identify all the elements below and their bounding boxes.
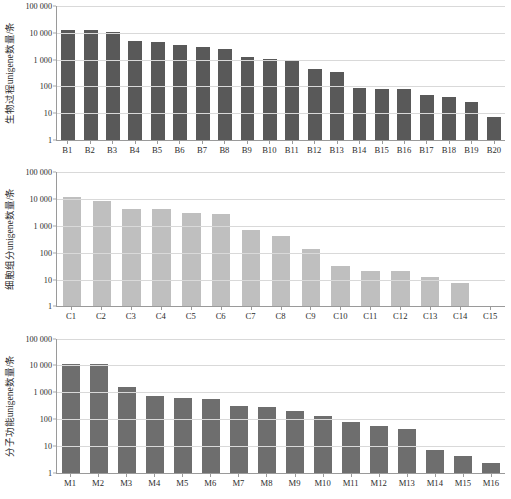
bar[interactable] xyxy=(230,406,247,472)
bar[interactable] xyxy=(212,214,231,306)
bar[interactable] xyxy=(375,89,389,140)
bar[interactable] xyxy=(391,271,410,306)
bar[interactable] xyxy=(420,95,434,140)
x-tick-slot: B20 xyxy=(483,141,505,163)
gridline xyxy=(57,86,505,87)
bar[interactable] xyxy=(398,429,415,473)
bar[interactable] xyxy=(286,411,303,472)
x-tick-label: C7 xyxy=(236,311,266,321)
x-tick-slot: M5 xyxy=(168,474,196,496)
bar-slot xyxy=(445,172,475,306)
bar[interactable] xyxy=(84,30,98,140)
x-tick-label: B4 xyxy=(123,145,145,155)
x-tick-label: M9 xyxy=(281,478,309,488)
y-tick-label: 10 xyxy=(44,109,52,118)
bar[interactable] xyxy=(421,277,440,306)
x-axis-ticks-molecular-function: M1M2M3M4M5M6M7M8M9M10M11M12M13M14M15M16 xyxy=(56,474,505,496)
x-tick-slot: B6 xyxy=(168,141,190,163)
bar[interactable] xyxy=(242,230,261,306)
y-tick-label: 10 000 xyxy=(29,361,52,370)
bar[interactable] xyxy=(302,249,321,306)
x-tick-label: C13 xyxy=(415,311,445,321)
x-tick-slot: C14 xyxy=(445,307,475,329)
x-tick-mark xyxy=(430,307,431,310)
bar[interactable] xyxy=(465,102,479,140)
x-tick-mark xyxy=(210,474,211,477)
x-tick-mark xyxy=(295,474,296,477)
x-tick-mark xyxy=(494,141,495,144)
y-tick-label: 10 xyxy=(44,441,52,450)
x-tick-mark xyxy=(359,141,360,144)
bar[interactable] xyxy=(308,69,322,140)
bar[interactable] xyxy=(174,398,191,473)
x-tick-label: C8 xyxy=(266,311,296,321)
bar[interactable] xyxy=(61,30,75,140)
x-tick-mark xyxy=(224,141,225,144)
x-tick-slot: C4 xyxy=(146,307,176,329)
x-tick-mark xyxy=(463,474,464,477)
bar[interactable] xyxy=(258,407,275,473)
bar[interactable] xyxy=(122,209,141,306)
x-tick-slot: C12 xyxy=(385,307,415,329)
x-tick-label: B6 xyxy=(168,145,190,155)
y-tick-label: 100 000 xyxy=(25,168,52,177)
y-tick-label: 1 000 xyxy=(34,55,52,64)
bar-slot xyxy=(57,339,85,473)
bar[interactable] xyxy=(118,387,135,473)
bar[interactable] xyxy=(370,426,387,473)
bar[interactable] xyxy=(361,271,380,306)
bar[interactable] xyxy=(442,97,456,140)
x-tick-mark xyxy=(379,474,380,477)
bar[interactable] xyxy=(482,463,499,472)
x-tick-mark xyxy=(182,474,183,477)
bar[interactable] xyxy=(285,60,299,140)
chart-panel-biological-process: 生物过程unigene数量/条 100 00010 0001 000100101… xyxy=(0,0,511,166)
bar[interactable] xyxy=(196,47,210,140)
bar-slot xyxy=(147,6,169,140)
bar-slot xyxy=(236,6,258,140)
plot-area-molecular-function xyxy=(56,339,505,474)
bar[interactable] xyxy=(241,57,255,140)
x-tick-mark xyxy=(407,474,408,477)
gridline xyxy=(57,33,505,34)
bar[interactable] xyxy=(342,422,359,473)
bar[interactable] xyxy=(218,49,232,140)
y-axis-ticks-biological-process: 100 00010 0001 000100101 xyxy=(18,0,56,146)
x-tick-mark xyxy=(351,474,352,477)
bar[interactable] xyxy=(487,117,501,140)
x-tick-label: B5 xyxy=(146,145,168,155)
x-tick-slot: C3 xyxy=(116,307,146,329)
bar[interactable] xyxy=(426,450,443,473)
bar[interactable] xyxy=(202,399,219,473)
plot-area-biological-process xyxy=(56,6,505,141)
bar[interactable] xyxy=(152,209,171,306)
bar[interactable] xyxy=(128,41,142,140)
y-tick-label: 100 xyxy=(40,415,52,424)
bar[interactable] xyxy=(151,42,165,140)
x-tick-slot: C13 xyxy=(415,307,445,329)
x-tick-label: B12 xyxy=(303,145,325,155)
bar[interactable] xyxy=(263,59,277,140)
bar[interactable] xyxy=(330,72,344,141)
x-tick-slot: C1 xyxy=(56,307,86,329)
bar[interactable] xyxy=(451,283,470,306)
bar[interactable] xyxy=(146,396,163,473)
x-tick-label: M15 xyxy=(449,478,477,488)
bar-slot xyxy=(259,6,281,140)
bar[interactable] xyxy=(454,456,471,473)
x-tick-slot: B13 xyxy=(325,141,347,163)
x-tick-label: M16 xyxy=(477,478,505,488)
x-tick-slot: B3 xyxy=(101,141,123,163)
bar[interactable] xyxy=(272,236,291,307)
bar[interactable] xyxy=(314,416,331,472)
bar-slot xyxy=(141,339,169,473)
bar-slot xyxy=(57,172,87,306)
bar[interactable] xyxy=(331,266,350,307)
x-tick-slot: B12 xyxy=(303,141,325,163)
x-tick-label: M11 xyxy=(337,478,365,488)
bar[interactable] xyxy=(63,197,82,307)
x-tick-mark xyxy=(247,141,248,144)
bar-slot xyxy=(326,6,348,140)
bar[interactable] xyxy=(397,89,411,140)
x-tick-label: C6 xyxy=(206,311,236,321)
